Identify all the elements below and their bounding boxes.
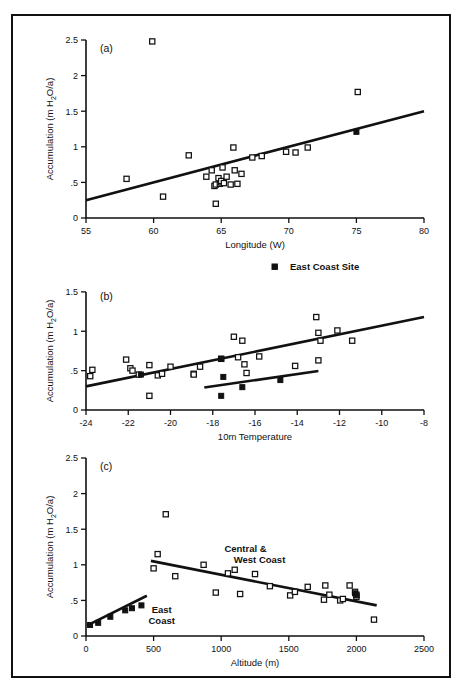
data-point-open — [267, 584, 272, 589]
y-tick-label: 0 — [73, 213, 78, 223]
data-point-open — [350, 338, 355, 343]
panel-b: 0.511.5-24-22-20-18-16-14-12-10-810m Tem… — [24, 258, 444, 458]
data-point-open — [259, 153, 264, 158]
data-point-open — [151, 566, 156, 571]
panel-letter: (b) — [100, 290, 113, 302]
y-tick-label: 1.5 — [65, 287, 78, 297]
data-point-open — [347, 583, 352, 588]
legend: East Coast Site — [272, 261, 359, 272]
svg-text:Accumulation (m H2O/a): Accumulation (m H2O/a) — [44, 300, 57, 403]
data-point-east-coast — [139, 603, 144, 608]
data-point-east-coast — [96, 620, 101, 625]
y-tick-label: 1 — [73, 142, 78, 152]
x-tick-label: 80 — [419, 226, 429, 236]
data-point-open — [204, 174, 209, 179]
panel-b-plot: 0.511.5-24-22-20-18-16-14-12-10-810m Tem… — [24, 258, 444, 458]
x-tick-label: -20 — [164, 418, 177, 428]
x-axis-title: Longitude (W) — [225, 239, 285, 250]
x-tick-label: -14 — [291, 418, 304, 428]
x-tick-label: 2000 — [346, 644, 366, 654]
plot-annotation: East — [152, 604, 173, 615]
x-tick-label: -16 — [248, 418, 261, 428]
x-axis-title: Altitude (m) — [231, 657, 280, 668]
svg-text:Accumulation (m H2O/a): Accumulation (m H2O/a) — [44, 78, 57, 181]
panel-a-plot: 0.511.522.5556065707580Longitude (W)Accu… — [24, 22, 444, 262]
data-point-open — [160, 194, 165, 199]
x-tick-label: 75 — [351, 226, 361, 236]
data-point-open — [191, 372, 196, 377]
data-point-open — [163, 512, 168, 517]
y-tick-label: .5 — [70, 178, 78, 188]
data-point-open — [147, 393, 152, 398]
x-tick-label: -8 — [420, 418, 428, 428]
data-point-east-coast — [138, 372, 143, 377]
data-point-open — [231, 334, 236, 339]
panel-a: 0.511.522.5556065707580Longitude (W)Accu… — [24, 22, 444, 262]
data-point-open — [228, 182, 233, 187]
data-point-open — [232, 168, 237, 173]
data-point-open — [155, 552, 160, 557]
data-point-open — [231, 145, 236, 150]
data-point-open — [240, 338, 245, 343]
y-axis-title: Accumulation (m H2O/a) — [44, 78, 57, 181]
data-point-open — [293, 363, 298, 368]
data-point-open — [197, 364, 202, 369]
data-point-open — [130, 368, 135, 373]
data-point-open — [159, 371, 164, 376]
figure-container: 0.511.522.5556065707580Longitude (W)Accu… — [0, 0, 462, 692]
data-point-open — [242, 362, 247, 367]
data-point-open — [283, 149, 288, 154]
plot-annotation: Coast — [149, 615, 176, 626]
y-tick-label: 2.5 — [65, 35, 78, 45]
data-point-open — [236, 355, 241, 360]
data-point-open — [340, 596, 345, 601]
data-point-open — [335, 328, 340, 333]
data-point-open — [321, 597, 326, 602]
data-point-open — [124, 176, 129, 181]
data-point-open — [316, 330, 321, 335]
data-point-east-coast — [108, 614, 113, 619]
data-point-open — [213, 201, 218, 206]
legend-marker-icon — [272, 264, 277, 269]
data-point-open — [168, 364, 173, 369]
y-axis-title: Accumulation (m H2O/a) — [44, 496, 57, 599]
x-tick-label: 55 — [81, 226, 91, 236]
x-tick-label: 0 — [83, 644, 88, 654]
panel-letter: (c) — [100, 460, 112, 472]
y-tick-label: 1.5 — [65, 525, 78, 535]
data-point-open — [220, 165, 225, 170]
legend-label: East Coast Site — [290, 261, 359, 272]
data-point-open — [316, 358, 321, 363]
y-tick-label: 1.5 — [65, 107, 78, 117]
y-tick-label: 1 — [73, 560, 78, 570]
data-point-open — [238, 591, 243, 596]
data-point-open — [88, 374, 93, 379]
data-point-open — [305, 584, 310, 589]
x-tick-label: -24 — [79, 418, 92, 428]
y-tick-label: .5 — [70, 366, 78, 376]
data-point-open — [314, 314, 319, 319]
data-point-open — [250, 155, 255, 160]
data-point-east-coast — [221, 374, 226, 379]
svg-text:Accumulation (m H2O/a): Accumulation (m H2O/a) — [44, 496, 57, 599]
data-point-open — [173, 574, 178, 579]
data-point-east-coast — [123, 608, 128, 613]
plot-annotation: Central & — [224, 543, 266, 554]
x-tick-label: 500 — [146, 644, 161, 654]
plot-annotation: West Coast — [234, 554, 286, 565]
data-point-open — [186, 153, 191, 158]
data-point-open — [293, 150, 298, 155]
data-point-east-coast — [88, 622, 93, 627]
data-point-open — [209, 168, 214, 173]
panel-letter: (a) — [100, 42, 113, 54]
y-tick-label: 0 — [73, 405, 78, 415]
data-point-open — [244, 370, 249, 375]
data-point-open — [224, 174, 229, 179]
x-tick-label: -18 — [206, 418, 219, 428]
data-point-open — [318, 338, 323, 343]
x-tick-label: -10 — [375, 418, 388, 428]
panel-c: 0.511.522.505001000150020002500Altitude … — [24, 440, 444, 685]
data-point-open — [371, 617, 376, 622]
data-point-open — [327, 592, 332, 597]
x-tick-label: 65 — [216, 226, 226, 236]
